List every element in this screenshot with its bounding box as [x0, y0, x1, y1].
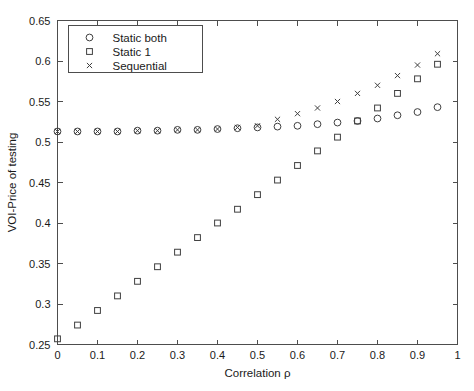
data-point-circle	[354, 118, 361, 125]
data-point-circle	[394, 112, 401, 119]
x-tick-label: 0.6	[290, 349, 305, 361]
data-point-square	[115, 293, 121, 299]
data-point-circle	[434, 104, 441, 111]
legend-label: Sequential	[113, 60, 167, 72]
data-point-circle	[414, 109, 421, 116]
y-tick-label: 0.35	[29, 258, 50, 270]
x-tick-label: 0.1	[90, 349, 105, 361]
data-point-square	[415, 76, 421, 82]
y-tick-label: 0.3	[35, 298, 50, 310]
data-point-square	[435, 61, 441, 67]
y-tick-label: 0.45	[29, 177, 50, 189]
data-point-square	[195, 235, 201, 241]
data-point-circle	[234, 125, 241, 132]
data-point-square	[395, 91, 401, 97]
x-tick-label: 1	[454, 349, 460, 361]
y-tick-label: 0.65	[29, 15, 50, 27]
data-point-square	[235, 206, 241, 212]
data-point-square	[75, 322, 81, 328]
y-tick-label: 0.6	[35, 55, 50, 67]
x-tick-label: 0.2	[130, 349, 145, 361]
x-tick-label: 0.3	[170, 349, 185, 361]
data-point-square	[155, 264, 161, 270]
data-point-circle	[334, 119, 341, 126]
data-point-circle	[294, 122, 301, 129]
data-point-square	[335, 134, 341, 140]
scatter-plot: 00.10.20.30.40.50.60.70.80.910.250.30.35…	[0, 0, 474, 391]
data-point-square	[315, 148, 321, 154]
x-tick-label: 0.7	[330, 349, 345, 361]
x-tick-label: 0.5	[250, 349, 265, 361]
legend-label: Static both	[113, 32, 167, 44]
data-point-square	[175, 249, 181, 255]
data-point-square	[135, 278, 141, 284]
y-tick-label: 0.55	[29, 96, 50, 108]
x-tick-label: 0.8	[370, 349, 385, 361]
data-point-circle	[314, 121, 321, 128]
data-point-square	[295, 163, 301, 169]
figure-canvas: 00.10.20.30.40.50.60.70.80.910.250.30.35…	[0, 0, 474, 391]
y-tick-label: 0.25	[29, 339, 50, 351]
data-point-circle	[254, 124, 261, 131]
data-point-circle	[274, 123, 281, 130]
data-point-square	[215, 220, 221, 226]
y-tick-label: 0.5	[35, 136, 50, 148]
x-tick-label: 0.9	[410, 349, 425, 361]
x-tick-label: 0	[54, 349, 60, 361]
data-point-square	[375, 105, 381, 111]
y-tick-label: 0.4	[35, 217, 50, 229]
data-point-square	[255, 192, 261, 198]
y-axis-label: VOI-Price of testing	[6, 133, 18, 233]
x-axis-label: Correlation ρ	[225, 367, 291, 379]
data-point-circle	[374, 115, 381, 122]
x-tick-label: 0.4	[210, 349, 225, 361]
legend-label: Static 1	[113, 46, 151, 58]
data-point-square	[275, 177, 281, 183]
data-point-square	[355, 118, 361, 124]
data-point-square	[95, 308, 101, 314]
